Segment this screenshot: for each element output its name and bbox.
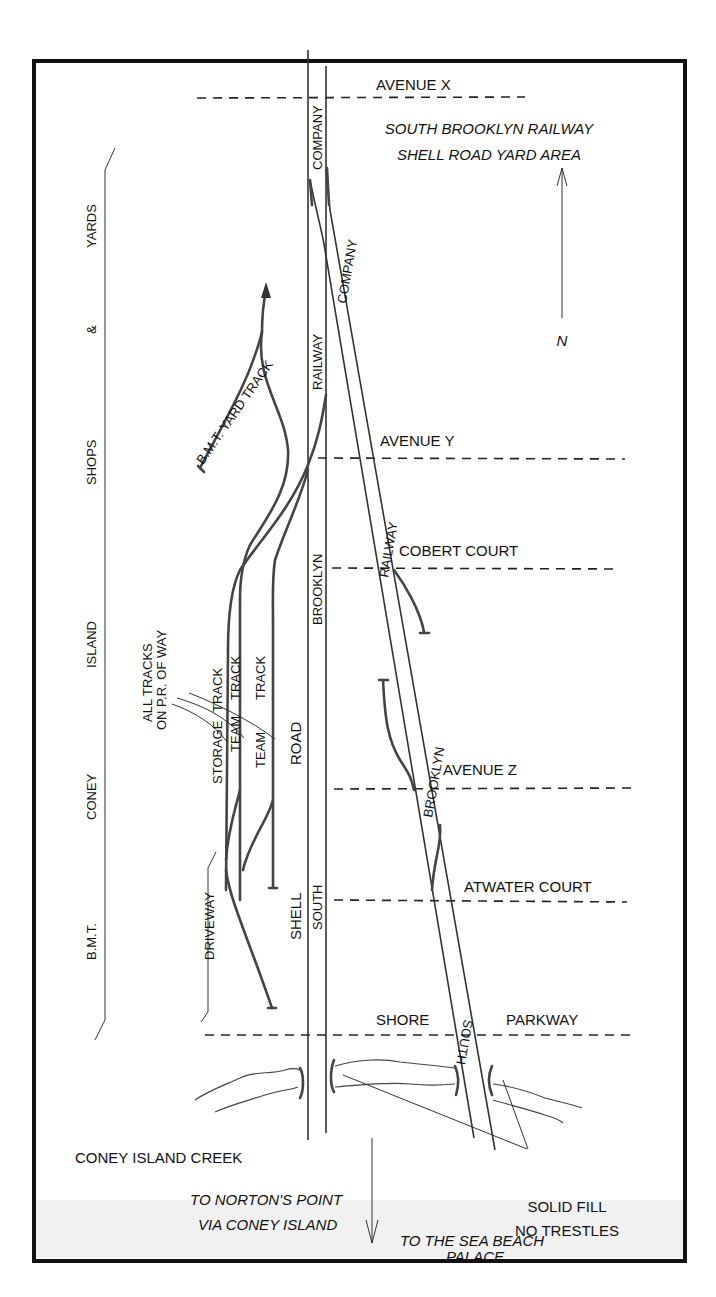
track-label-team-1: TEAM [228,716,243,752]
note-line-2: ON P.R. OF WAY [154,630,169,730]
road-label-road: ROAD [287,721,304,765]
street-avenue-x-line [197,97,525,98]
note-line-1: ALL TRACKS [140,643,155,722]
track-label-team-2: TEAM [253,732,268,768]
taper-east [327,168,329,205]
title-line-1: SOUTH BROOKLYN RAILWAY [385,120,594,137]
bmt-yard-track-arrow-icon [261,282,271,298]
diagonal-label-railway: RAILWAY [376,520,401,578]
driveway-label: DRIVEWAY [202,892,217,960]
side-label-ampersand: & [84,325,99,334]
creek-bank-mid-lower [335,1083,455,1087]
sea-beach-line-2: PALACE [446,1248,505,1265]
side-label-island: ISLAND [84,621,99,668]
creek-bank-west-lower [215,1087,298,1112]
creek-bank-mid-upper [335,1060,455,1068]
bmt-yard-track-label: B.M.T. YARD TRACK [193,357,276,466]
side-label-bmt: B.M.T. [84,923,99,960]
fill-bracket-1 [300,1068,303,1098]
track-label-storage: STORAGE [210,720,225,784]
solid-fill-line-1: SOLID FILL [527,1198,606,1215]
sea-beach-line-1: TO THE SEA BEACH [400,1232,544,1249]
side-label-yards: YARDS [84,204,99,248]
street-label-parkway: PARKWAY [506,1011,578,1028]
street-avenue-z-line [334,788,632,789]
track-label-team-1-track: TRACK [228,656,243,700]
spur-avenue-z [383,680,414,790]
street-label-atwater-court: ATWATER COURT [464,878,592,895]
crossover-2 [243,800,273,870]
vertical-label-railway: RAILWAY [310,334,325,390]
vertical-label-south: SOUTH [310,885,325,931]
diagonal-west-line [310,180,474,1138]
creek-label: CONEY ISLAND CREEK [75,1149,242,1166]
diagonal-label-brooklyn: BROOKLYN [420,746,447,819]
vertical-label-company: COMPANY [310,105,325,170]
taper-west [310,180,312,205]
north-label: N [557,332,568,349]
creek-bank-west-upper [195,1069,300,1101]
street-label-cobert-court: COBERT COURT [399,542,518,559]
diagonal-label-south: SOUTH [453,1018,476,1065]
norton-line-1: TO NORTON'S POINT [190,1191,344,1208]
norton-line-2: VIA CONEY ISLAND [198,1216,337,1233]
street-label-avenue-y: AVENUE Y [380,432,454,449]
diagonal-east-line [326,170,495,1150]
street-label-avenue-z: AVENUE Z [443,761,517,778]
track-label-storage-track: TRACK [210,668,225,712]
driveway-arrow-bottom-tick [201,1012,208,1022]
title-line-2: SHELL ROAD YARD AREA [397,146,581,163]
street-avenue-y-line [318,458,625,459]
side-arrow-top-tick [105,148,115,170]
crossover-1 [226,790,240,860]
street-atwater-court-line [334,900,627,902]
solid-fill-pointer-1 [343,1075,527,1149]
road-label-shell: SHELL [287,892,304,940]
driveway-lead-track [226,870,272,1008]
spur-atwater [432,825,440,890]
vertical-label-brooklyn: BROOKLYN [310,554,325,625]
side-label-coney: CONEY [84,773,99,820]
fill-bracket-2 [331,1060,334,1092]
street-label-avenue-x: AVENUE X [376,76,451,93]
diagonal-label-company: COMPANY [334,238,360,305]
street-label-shore: SHORE [376,1011,429,1028]
shell-road-yard-map: SOUTH BROOKLYN RAILWAY SHELL ROAD YARD A… [0,0,716,1297]
yard-lead-track-3 [273,470,308,620]
fill-bracket-3 [455,1066,458,1095]
creek-bank-east-lower [493,1100,563,1123]
driveway-arrow-top-tick [208,852,216,868]
side-label-shops: SHOPS [84,439,99,485]
track-label-team-2-track: TRACK [253,656,268,700]
side-arrow-bottom-tick [95,1020,105,1040]
fill-bracket-4 [489,1066,492,1095]
street-cobert-court-line [332,568,620,569]
